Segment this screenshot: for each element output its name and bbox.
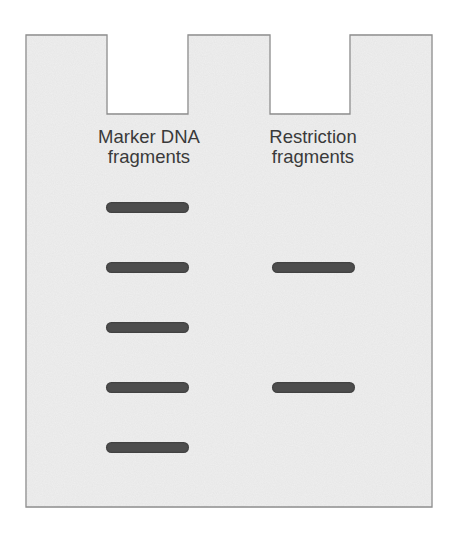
gel-texture: [26, 35, 432, 507]
restriction-band-2: [272, 382, 355, 393]
lane-label-restriction-line2: fragments: [252, 147, 374, 167]
lane-label-marker-line1: Marker DNA: [88, 127, 210, 147]
lane-label-restriction: Restriction fragments: [252, 127, 374, 167]
restriction-band-1: [272, 262, 355, 273]
lane-label-marker: Marker DNA fragments: [88, 127, 210, 167]
lane-label-marker-line2: fragments: [88, 147, 210, 167]
lane-label-restriction-line1: Restriction: [252, 127, 374, 147]
gel-slab: [0, 0, 457, 536]
marker-band-2: [106, 262, 189, 273]
marker-band-5: [106, 442, 189, 453]
marker-band-1: [106, 202, 189, 213]
marker-band-3: [106, 322, 189, 333]
marker-band-4: [106, 382, 189, 393]
